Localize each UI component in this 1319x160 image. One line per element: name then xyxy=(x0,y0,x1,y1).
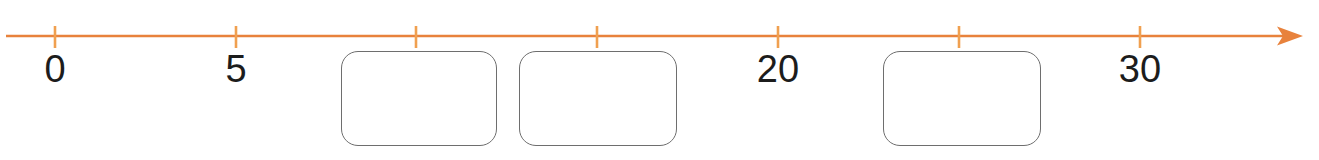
tick-label-5: 5 xyxy=(225,50,246,88)
answer-box-3[interactable] xyxy=(883,51,1041,146)
answer-box-2[interactable] xyxy=(519,51,677,146)
worksheet-canvas: 052030 xyxy=(0,0,1319,160)
tick-label-0: 0 xyxy=(44,50,65,88)
tick-label-20: 20 xyxy=(757,50,799,88)
answer-box-1[interactable] xyxy=(341,51,497,146)
tick-label-30: 30 xyxy=(1119,50,1161,88)
